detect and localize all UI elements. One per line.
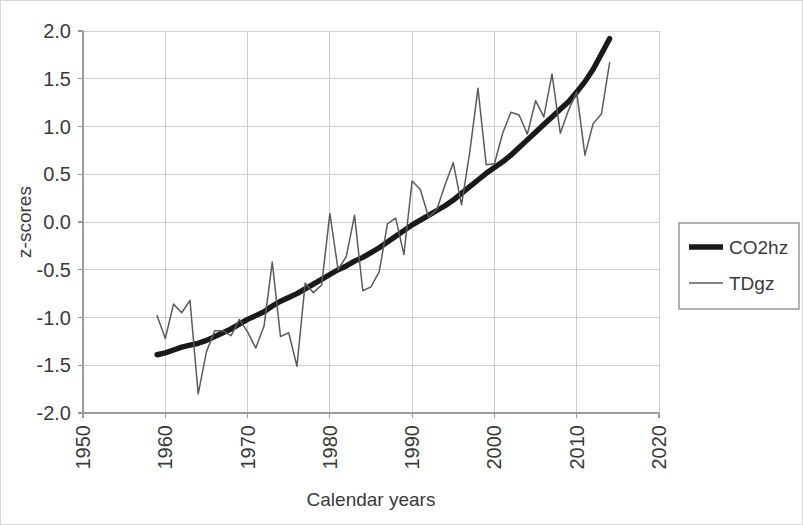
y-axis-tick-labels: -2.0-1.5-1.0-0.50.00.51.01.52.0 — [37, 20, 71, 424]
chart-canvas: -2.0-1.5-1.0-0.50.00.51.01.52.0 19501960… — [1, 1, 803, 525]
y-axis-title: z-scores — [14, 186, 35, 258]
y-axis-tick-label: 0.5 — [43, 163, 71, 185]
series-line-co2hz — [157, 39, 610, 355]
x-axis-title: Calendar years — [307, 489, 436, 510]
y-axis-tick-label: -2.0 — [37, 402, 71, 424]
x-axis-tick-label: 2000 — [483, 425, 505, 470]
x-axis-title-label: Calendar years — [307, 489, 436, 510]
y-axis-tick-label: -1.0 — [37, 307, 71, 329]
x-axis-tick-label: 2010 — [566, 425, 588, 470]
y-axis-tick-label: 0.0 — [43, 211, 71, 233]
x-axis-tick-label: 1990 — [401, 425, 423, 470]
y-axis-title-label: z-scores — [14, 186, 35, 258]
series-line-tdgz — [157, 63, 610, 394]
legend-label-tdgz: TDgz — [729, 273, 774, 294]
chart-figure: -2.0-1.5-1.0-0.50.00.51.01.52.0 19501960… — [0, 0, 803, 525]
chart-legend: CO2hzTDgz — [679, 223, 799, 309]
x-axis-tick-labels: 19501960197019801990200020102020 — [72, 425, 670, 470]
legend-label-co2hz: CO2hz — [729, 237, 788, 258]
gridlines-horizontal — [83, 31, 659, 413]
x-axis-tick-label: 1950 — [72, 425, 94, 470]
y-axis-tick-label: -0.5 — [37, 259, 71, 281]
x-axis-tick-label: 2020 — [648, 425, 670, 470]
series-lines — [157, 39, 610, 394]
y-axis-tick-label: 1.5 — [43, 68, 71, 90]
y-axis-tick-label: 1.0 — [43, 116, 71, 138]
x-axis-tick-label: 1980 — [319, 425, 341, 470]
x-axis-tick-label: 1960 — [154, 425, 176, 470]
legend-box — [679, 223, 799, 309]
y-axis-tick-label: -1.5 — [37, 354, 71, 376]
y-axis-tick-label: 2.0 — [43, 20, 71, 42]
x-axis-tick-label: 1970 — [237, 425, 259, 470]
